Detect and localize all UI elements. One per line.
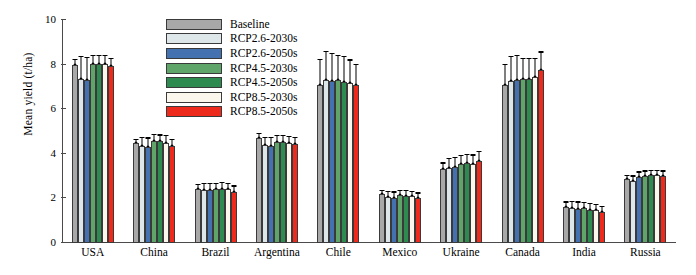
bar[interactable]	[660, 176, 666, 243]
bar[interactable]	[353, 85, 359, 243]
y-axis-tick-label: 2	[28, 193, 56, 202]
legend-swatch	[166, 77, 222, 88]
error-bar-cap	[262, 137, 267, 138]
legend-item[interactable]: Baseline	[166, 17, 297, 32]
bar[interactable]	[538, 70, 544, 243]
error-bar-cap	[90, 55, 95, 56]
error-bar-cap	[164, 135, 169, 136]
bar-chart: Mean yield (t/ha) 0246810 USAChinaBrazil…	[0, 0, 696, 275]
error-bar-cap	[502, 64, 507, 65]
x-axis-tick-label: Brazil	[185, 246, 246, 258]
error-bar-cap	[146, 137, 151, 138]
bar[interactable]	[415, 198, 421, 243]
legend-swatch	[166, 33, 222, 44]
error-bar-cap	[152, 134, 157, 135]
bar-set	[502, 20, 544, 243]
error-bar-cap	[379, 190, 384, 191]
x-axis-tick-label: Mexico	[369, 246, 430, 258]
error-bar-cap	[409, 191, 414, 192]
legend-swatch	[166, 48, 222, 59]
error-bar-cap	[569, 201, 574, 202]
error-bar-cap	[415, 192, 420, 193]
bar-column	[599, 20, 605, 243]
error-bar-cap	[625, 175, 630, 176]
error-bar-cap	[342, 56, 347, 57]
bar-column	[538, 20, 544, 243]
error-bar-cap	[465, 154, 470, 155]
legend-label: RCP4.5-2030s	[230, 63, 297, 74]
bar-column	[660, 20, 666, 243]
error-bar-cap	[72, 59, 77, 60]
bar-group	[553, 20, 614, 243]
y-axis-tick-label: 0	[28, 238, 56, 247]
bar[interactable]	[169, 146, 175, 243]
error-bar-cap	[84, 57, 89, 58]
error-bar-cap	[292, 137, 297, 138]
legend-swatch	[166, 19, 222, 30]
bar-set	[379, 20, 421, 243]
bar-group	[62, 20, 123, 243]
bar[interactable]	[476, 161, 482, 243]
error-bar-cap	[385, 191, 390, 192]
error-bar-cap	[102, 55, 107, 56]
error-bar-cap	[268, 137, 273, 138]
bar-column	[476, 20, 482, 243]
x-axis-tick-label: Canada	[492, 246, 553, 258]
bar-group	[492, 20, 553, 243]
legend-label: RCP8.5-2050s	[230, 106, 297, 117]
error-bar-cap	[599, 206, 604, 207]
error-bar-cap	[318, 59, 323, 60]
error-bar-cap	[195, 184, 200, 185]
y-axis-tick-label: 8	[28, 60, 56, 69]
y-axis-tick-label: 4	[28, 149, 56, 158]
error-bar-cap	[201, 183, 206, 184]
error-bar-cap	[575, 201, 580, 202]
y-axis-tick-label: 10	[28, 15, 56, 24]
error-bar-cap	[330, 53, 335, 54]
error-bar-cap	[447, 158, 452, 159]
x-axis-tick-label: Ukraine	[430, 246, 491, 258]
legend-item[interactable]: RCP4.5-2030s	[166, 61, 297, 76]
error-bar-cap	[453, 157, 458, 158]
x-axis-tick-label: Argentina	[246, 246, 307, 258]
x-axis-tick-label: India	[553, 246, 614, 258]
bar-set	[440, 20, 482, 243]
error-bar	[80, 57, 81, 78]
error-bar-cap	[108, 58, 113, 59]
error-bar-cap	[280, 135, 285, 136]
error-bar	[86, 58, 87, 80]
chart-legend: BaselineRCP2.6-2030sRCP2.6-2050sRCP4.5-2…	[166, 17, 297, 119]
legend-item[interactable]: RCP4.5-2050s	[166, 75, 297, 90]
legend-label: Baseline	[230, 19, 270, 30]
error-bar-cap	[532, 58, 537, 59]
legend-label: RCP2.6-2030s	[230, 33, 297, 44]
error-bar-cap	[526, 58, 531, 59]
error-bar	[516, 56, 517, 81]
bar[interactable]	[231, 192, 237, 244]
error-bar	[522, 59, 523, 79]
legend-item[interactable]: RCP8.5-2050s	[166, 105, 297, 120]
error-bar-cap	[354, 64, 359, 65]
x-axis-tick-label: Russia	[615, 246, 676, 258]
legend-item[interactable]: RCP8.5-2030s	[166, 90, 297, 105]
error-bar-cap	[348, 59, 353, 60]
legend-item[interactable]: RCP2.6-2050s	[166, 46, 297, 61]
bar[interactable]	[599, 212, 605, 243]
bar-set	[317, 20, 359, 243]
error-bar-cap	[324, 51, 329, 52]
bar-group	[308, 20, 369, 243]
legend-item[interactable]: RCP2.6-2030s	[166, 32, 297, 47]
error-bar	[326, 52, 327, 80]
bar-groups	[62, 20, 676, 243]
error-bar	[332, 54, 333, 82]
error-bar-cap	[207, 183, 212, 184]
error-bar-cap	[655, 170, 660, 171]
legend-label: RCP2.6-2050s	[230, 48, 297, 59]
error-bar	[320, 60, 321, 85]
error-bar	[534, 59, 535, 77]
error-bar	[540, 53, 541, 70]
error-bar-cap	[78, 56, 83, 57]
bar[interactable]	[292, 144, 298, 243]
error-bar-cap	[649, 170, 654, 171]
bar[interactable]	[108, 66, 114, 243]
